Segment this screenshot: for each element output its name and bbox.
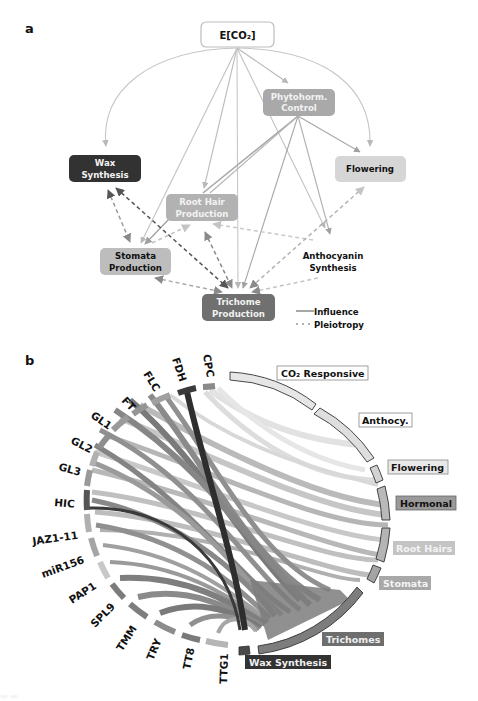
gene-label-cpc: CPC	[201, 353, 217, 378]
gene-label-tmm: TMM	[114, 623, 139, 653]
category-label-trichomes: Trichomes	[322, 632, 384, 646]
node-trichome-production: Trichome Production	[202, 294, 275, 321]
panel-a: a	[25, 21, 406, 330]
svg-text:Trichome: Trichome	[216, 297, 260, 307]
gene-label-ttg1: TTG1	[217, 653, 230, 684]
svg-text:Root Hair: Root Hair	[179, 197, 225, 207]
svg-text:Hormonal: Hormonal	[400, 498, 452, 509]
svg-text:Stomata: Stomata	[383, 578, 428, 589]
svg-text:Flowering: Flowering	[391, 462, 444, 473]
gene-label-pap1: PAP1	[67, 579, 99, 605]
gene-label-flc: FLC	[141, 369, 163, 394]
gene-label-gl3: GL3	[57, 460, 82, 477]
svg-text:Synthesis: Synthesis	[309, 263, 356, 273]
node-anthocyanin-synthesis: Anthocyanin Synthesis	[303, 251, 364, 273]
node-phytohormonal-control: Phytohorm. Control	[263, 89, 335, 116]
category-label-root-hairs: Root Hairs	[393, 541, 455, 555]
svg-text:Wax Synthesis: Wax Synthesis	[249, 657, 327, 668]
category-label-hormonal: Hormonal	[396, 496, 456, 510]
svg-text:Root Hairs: Root Hairs	[396, 543, 453, 554]
svg-text:Control: Control	[281, 103, 317, 113]
gene-label-tt8: TT8	[180, 647, 196, 671]
svg-text:CO₂ Responsive: CO₂ Responsive	[281, 368, 365, 379]
svg-text:E[CO₂]: E[CO₂]	[219, 30, 255, 41]
node-eco2: E[CO₂]	[201, 22, 274, 47]
gene-label-spl9: SPL9	[88, 600, 117, 629]
node-wax-synthesis: Wax Synthesis	[69, 155, 141, 182]
panel-b-label: b	[25, 353, 34, 368]
panel-a-label: a	[25, 21, 34, 36]
arc-root-hairs	[376, 528, 390, 562]
svg-text:Production: Production	[176, 209, 229, 219]
category-label-co2-responsive: CO₂ Responsive	[277, 366, 368, 380]
svg-text:Synthesis: Synthesis	[81, 170, 128, 180]
node-flowering: Flowering	[335, 156, 406, 182]
gene-label-hic: HIC	[54, 496, 76, 510]
category-label-stomata: Stomata	[379, 576, 431, 590]
gene-label-fdh: FDH	[170, 356, 189, 383]
gene-label-try: TRY	[144, 636, 164, 662]
category-label-anthocyanin: Anthocy.	[359, 413, 412, 427]
gene-label-gl2: GL2	[69, 434, 95, 455]
node-stomata-production: Stomata Production	[100, 248, 171, 275]
svg-text:Phytohorm.: Phytohorm.	[271, 92, 328, 102]
svg-text:Flowering: Flowering	[346, 164, 394, 174]
figure-caption-fragment: ... ...	[0, 690, 478, 701]
legend-influence: Influence	[314, 307, 359, 317]
svg-text:Production: Production	[109, 263, 162, 273]
figure-canvas: a	[0, 0, 478, 701]
svg-text:Anthocy.: Anthocy.	[362, 415, 409, 426]
legend-pleiotropy: Pleiotropy	[314, 320, 364, 330]
category-label-flowering: Flowering	[388, 460, 448, 474]
svg-text:Trichomes: Trichomes	[326, 634, 381, 645]
arc-wax-synthesis	[239, 646, 250, 655]
gene-label-mir156: miR156	[40, 553, 86, 580]
arc-stomata	[367, 565, 381, 583]
panel-b: b	[25, 353, 456, 684]
gene-labels: CPC FDH FLC FT GL1 GL2 GL3 HIC JAZ1-11 m…	[31, 353, 230, 684]
legend: Influence Pleiotropy	[296, 307, 364, 330]
figure: a	[0, 0, 478, 701]
category-label-wax-synthesis: Wax Synthesis	[245, 655, 331, 669]
node-root-hair-production: Root Hair Production	[166, 194, 238, 221]
svg-text:Wax: Wax	[95, 158, 116, 168]
svg-text:Production: Production	[212, 309, 265, 319]
svg-text:Anthocyanin: Anthocyanin	[303, 251, 364, 261]
gene-label-jaz1-11: JAZ1-11	[31, 529, 79, 547]
svg-text:Stomata: Stomata	[115, 251, 156, 261]
